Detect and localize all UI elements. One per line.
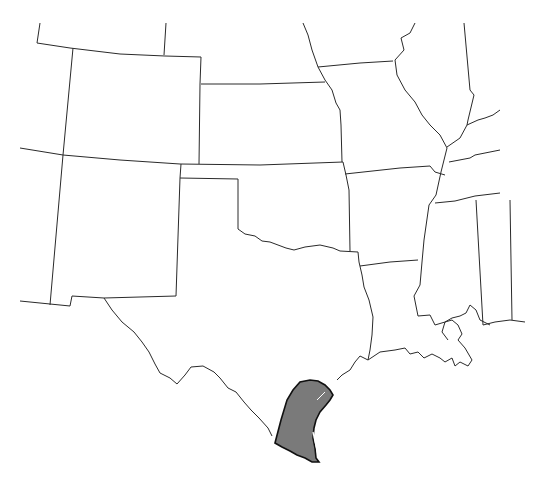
state-borders bbox=[20, 23, 525, 436]
range-map bbox=[0, 0, 556, 483]
species-range bbox=[275, 380, 333, 462]
